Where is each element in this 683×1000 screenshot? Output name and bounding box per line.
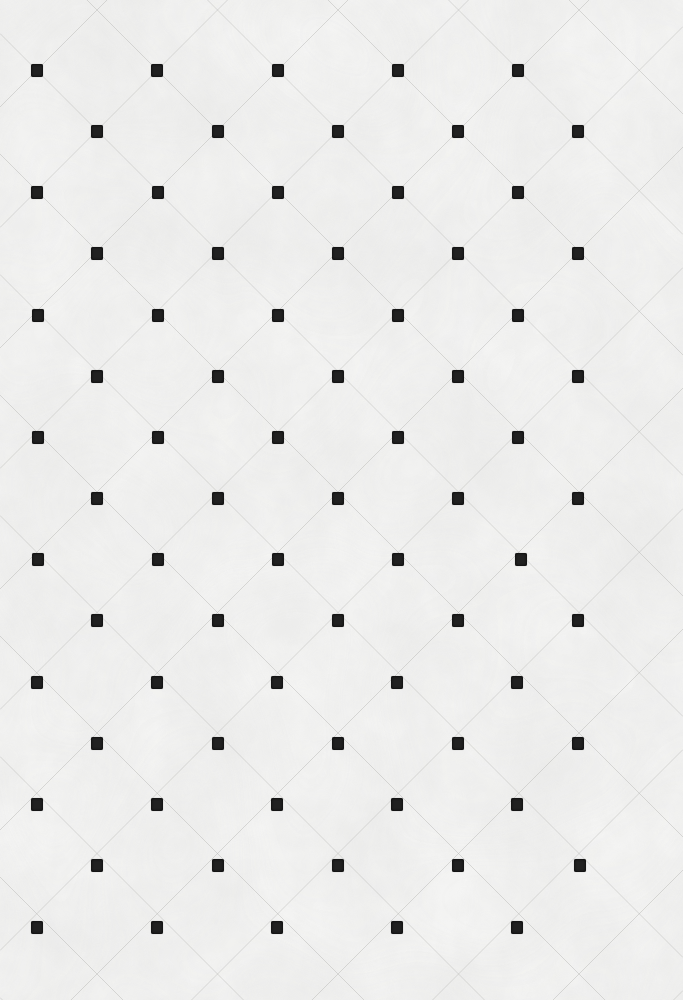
marble-texture	[0, 0, 683, 1000]
marble-tile-floor	[0, 0, 683, 1000]
